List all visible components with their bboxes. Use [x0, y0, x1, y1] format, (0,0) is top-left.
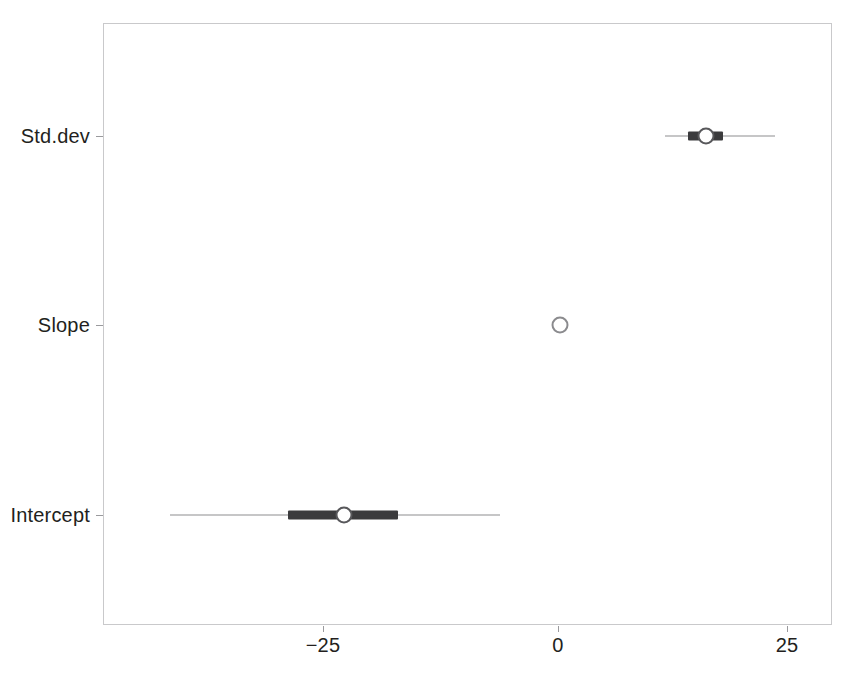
plot-panel [103, 23, 832, 625]
y-tick-mark-std-dev [96, 136, 103, 137]
y-tick-label-slope: Slope [38, 314, 90, 337]
interval-plot: Std.dev Slope Intercept −25 0 25 [0, 0, 861, 685]
x-tick-mark-0 [558, 626, 559, 632]
x-tick-mark-neg25 [323, 626, 324, 632]
x-tick-label-neg25: −25 [306, 634, 341, 657]
x-tick-label-25: 25 [776, 634, 799, 657]
y-axis: Std.dev Slope Intercept [0, 0, 90, 685]
y-tick-mark-slope [96, 325, 103, 326]
y-tick-label-intercept: Intercept [10, 504, 90, 527]
x-tick-mark-25 [787, 626, 788, 632]
x-tick-label-0: 0 [552, 634, 563, 657]
y-tick-label-std-dev: Std.dev [21, 125, 90, 148]
y-tick-mark-intercept [96, 515, 103, 516]
